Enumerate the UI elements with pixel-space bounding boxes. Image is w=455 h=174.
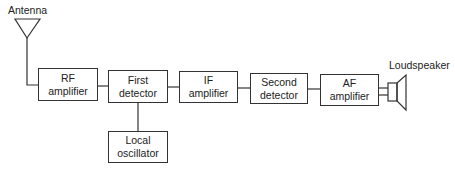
block-line1: First — [128, 74, 148, 87]
block-line1: IF — [204, 74, 213, 87]
local-oscillator-block: Local oscillator — [108, 131, 168, 163]
block-line2: detector — [119, 87, 157, 100]
block-line2: amplifier — [189, 87, 229, 100]
loudspeaker-label: Loudspeaker — [389, 59, 450, 71]
block-line1: RF — [61, 72, 75, 85]
block-line1: AF — [343, 77, 356, 90]
second-detector-block: Second detector — [250, 73, 308, 104]
antenna-icon — [15, 19, 40, 38]
wire-antenna-rf — [27, 38, 38, 85]
af-amplifier-block: AF amplifier — [320, 74, 379, 106]
block-line1: Local — [125, 134, 150, 147]
block-line2: oscillator — [117, 147, 158, 160]
block-line2: amplifier — [48, 85, 88, 98]
block-line1: Second — [261, 76, 297, 89]
block-line2: detector — [260, 89, 298, 102]
rf-amplifier-block: RF amplifier — [38, 68, 98, 101]
block-line2: amplifier — [330, 90, 370, 103]
loudspeaker-icon — [388, 75, 406, 110]
first-detector-block: First detector — [108, 70, 168, 103]
if-amplifier-block: IF amplifier — [179, 71, 238, 103]
antenna-label: Antenna — [8, 4, 47, 16]
